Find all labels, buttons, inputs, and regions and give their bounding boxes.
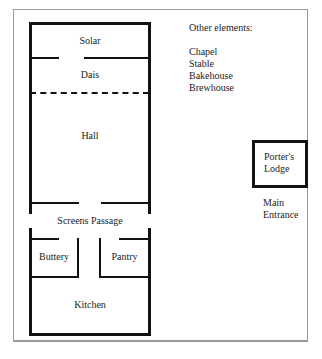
other-elements-heading: Other elements: [189, 22, 253, 34]
wall-solar-dais-left [29, 57, 59, 59]
main-entrance-label: Main Entrance [263, 197, 299, 221]
main-entrance-label-line2: Entrance [263, 209, 299, 221]
wall-buttery-right [77, 238, 79, 278]
room-kitchen-label: Kitchen [30, 299, 150, 311]
other-element-item: Brewhouse [189, 82, 253, 94]
room-screens-passage-label: Screens Passage [30, 215, 150, 227]
wall-pantry-top [119, 238, 151, 240]
room-hall-label: Hall [30, 130, 150, 142]
wall-kitchen-top-right [99, 276, 151, 278]
main-entrance-label-line1: Main [263, 197, 299, 209]
other-element-item: Chapel [189, 46, 253, 58]
wall-top [29, 22, 151, 25]
room-pantry-label: Pantry [101, 251, 148, 263]
porters-lodge-label-line1: Porter's [264, 151, 294, 163]
wall-hall-screens-right [101, 202, 151, 204]
wall-buttery-top [29, 238, 59, 240]
wall-left-lower [29, 228, 32, 336]
wall-solar-dais-right [84, 57, 151, 59]
porters-lodge-label-line2: Lodge [264, 163, 294, 175]
other-element-item: Stable [189, 58, 253, 70]
wall-right-lower [148, 228, 151, 336]
room-buttery-label: Buttery [31, 251, 77, 263]
room-solar-label: Solar [30, 35, 150, 47]
wall-right-upper [148, 22, 151, 214]
other-elements-list: Other elements: Chapel Stable Bakehouse … [189, 22, 253, 94]
wall-kitchen-top-left [29, 276, 79, 278]
room-dais-label: Dais [30, 69, 150, 81]
other-element-item: Bakehouse [189, 70, 253, 82]
wall-bottom [29, 333, 151, 336]
porters-lodge-label: Porter's Lodge [264, 151, 294, 175]
wall-left-upper [29, 22, 32, 214]
wall-hall-screens-left [29, 202, 79, 204]
dais-hall-divider [30, 92, 149, 94]
